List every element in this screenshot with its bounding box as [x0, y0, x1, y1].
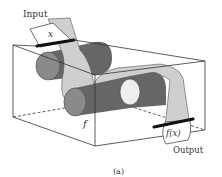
input-label: Input — [23, 9, 48, 19]
function-symbol: f — [82, 118, 89, 129]
function-machine-diagram: Input x f f(x) Output (a) — [0, 0, 222, 177]
output-symbol: f(x) — [165, 128, 181, 138]
output-label: Output — [173, 145, 204, 155]
figure-caption: (a) — [113, 167, 124, 176]
input-symbol: x — [48, 29, 53, 39]
